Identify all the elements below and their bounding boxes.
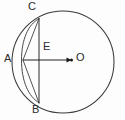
- geometry-canvas: [0, 0, 125, 120]
- center-dot-o: [70, 59, 73, 62]
- main-circle: [12, 11, 114, 113]
- vertex-label-e: E: [43, 41, 50, 52]
- vertex-label-o: O: [76, 52, 85, 63]
- arc-cab: [22, 19, 40, 104]
- geometry-figure: A B C E O: [0, 0, 125, 120]
- vertex-label-a: A: [4, 53, 11, 64]
- vertex-label-c: C: [28, 1, 36, 12]
- vertex-label-b: B: [32, 104, 39, 115]
